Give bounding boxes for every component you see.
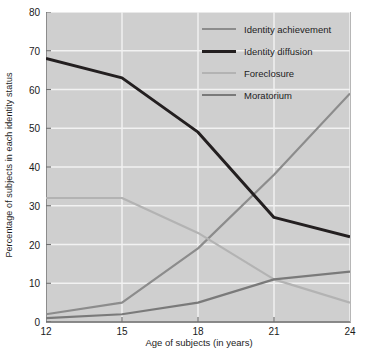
x-tick-label: 15 — [116, 326, 127, 337]
y-tick-label: 20 — [18, 239, 40, 250]
x-tick-label: 24 — [344, 326, 355, 337]
legend-item: Moratorium — [202, 84, 362, 106]
x-axis-title: Age of subjects (in years) — [46, 337, 352, 348]
y-axis-tick-labels: 01020304050607080 — [16, 0, 40, 356]
x-tick-label: 21 — [268, 326, 279, 337]
x-tick-label: 18 — [192, 326, 203, 337]
legend-item-label: Identity achievement — [244, 24, 331, 35]
y-tick-label: 30 — [18, 200, 40, 211]
legend-item: Identity diffusion — [202, 40, 362, 62]
legend-swatch-line-icon — [202, 28, 236, 30]
legend-item: Identity achievement — [202, 18, 362, 40]
y-tick-label: 50 — [18, 123, 40, 134]
legend-item: Foreclosure — [202, 62, 362, 84]
legend-swatch-line-icon — [202, 72, 236, 74]
chart-figure: Percentage of subjects in each identity … — [0, 0, 366, 356]
y-tick-label: 80 — [18, 7, 40, 18]
y-tick-label: 40 — [18, 162, 40, 173]
legend-swatch-line-icon — [202, 94, 236, 96]
legend-swatch-line-icon — [202, 50, 236, 53]
legend-item-label: Identity diffusion — [244, 46, 312, 57]
x-axis-title-text: Age of subjects (in years) — [145, 337, 252, 348]
y-axis-title-text: Percentage of subjects in each identity … — [4, 72, 14, 257]
y-tick-label: 60 — [18, 84, 40, 95]
y-tick-label: 70 — [18, 45, 40, 56]
x-tick-label: 12 — [40, 326, 51, 337]
y-tick-label: 10 — [18, 278, 40, 289]
legend-item-label: Moratorium — [244, 90, 292, 101]
legend-item-label: Foreclosure — [244, 68, 294, 79]
chart-legend: Identity achievementIdentity diffusionFo… — [202, 18, 362, 106]
